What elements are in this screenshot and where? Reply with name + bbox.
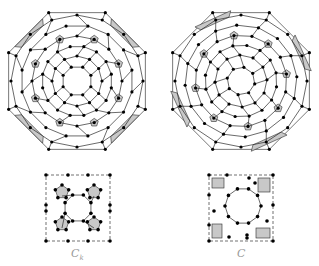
vertex — [285, 72, 288, 75]
vertex — [251, 56, 254, 59]
left-tile-graph — [44, 173, 112, 243]
vertex — [195, 68, 198, 71]
vertex — [244, 135, 247, 138]
vertex — [226, 77, 229, 80]
vertex — [67, 188, 71, 192]
vertex — [75, 34, 78, 37]
vertex — [64, 228, 68, 232]
spoke-edge — [22, 81, 32, 92]
spoke-edge — [188, 64, 197, 70]
ring-edge — [22, 26, 132, 136]
vertex — [104, 11, 107, 14]
shaded-face — [258, 178, 270, 192]
vertex — [29, 48, 32, 51]
vertex — [86, 24, 89, 27]
vertex — [207, 223, 211, 227]
vertex — [58, 38, 61, 41]
vertex — [88, 228, 92, 232]
vertex — [269, 58, 272, 61]
shaded-face — [111, 19, 139, 47]
vertex — [82, 45, 85, 48]
vertex — [247, 176, 251, 180]
vertex — [97, 92, 100, 95]
tile-boundary — [46, 175, 110, 241]
vertex — [227, 102, 230, 105]
vertex — [7, 51, 10, 54]
vertex — [276, 37, 279, 40]
vertex — [171, 108, 174, 111]
vertex — [248, 114, 251, 117]
outer-boundary — [173, 13, 310, 150]
vertex — [239, 13, 242, 16]
vertex — [260, 109, 263, 112]
vertex — [75, 54, 78, 57]
vertex — [259, 204, 263, 208]
vertex — [136, 105, 139, 108]
fullerene-figure — [0, 0, 319, 266]
vertex — [47, 148, 50, 151]
vertex — [60, 183, 64, 187]
vertex — [203, 122, 206, 125]
spoke-edge — [16, 56, 22, 70]
vertex — [107, 33, 110, 36]
vertex — [225, 57, 228, 60]
vertex — [66, 173, 70, 177]
vertex — [284, 90, 287, 93]
ring-edge — [63, 67, 91, 95]
vertex — [44, 48, 47, 51]
vertex — [263, 119, 266, 122]
vertex — [81, 93, 84, 96]
vertex — [63, 101, 66, 104]
vertex — [256, 194, 260, 198]
vertex — [250, 35, 253, 38]
vertex — [171, 51, 174, 54]
ring-edge — [215, 55, 267, 107]
vertex — [245, 233, 249, 237]
shaded-pentagon — [87, 185, 100, 198]
vertex — [50, 79, 53, 82]
vertex — [14, 54, 17, 57]
spoke-edge — [102, 74, 111, 81]
vertex — [214, 140, 217, 143]
vertex — [96, 228, 100, 232]
vertex — [144, 108, 147, 111]
vertex — [88, 101, 91, 104]
vertex — [228, 87, 231, 90]
vertex — [86, 173, 90, 177]
shaded-face — [256, 228, 270, 238]
vertex — [86, 134, 89, 137]
vertex — [69, 114, 72, 117]
vertex — [63, 201, 67, 205]
vertex — [308, 51, 311, 54]
vertex — [173, 79, 176, 82]
vertex — [193, 33, 196, 36]
vertex — [193, 126, 196, 129]
vertex — [202, 52, 205, 55]
spoke-edge — [267, 73, 276, 80]
vertex — [223, 204, 227, 208]
spoke-edge — [294, 98, 302, 106]
vertex — [197, 43, 200, 46]
vertex — [265, 219, 269, 223]
vertex — [246, 125, 249, 128]
vertex — [93, 38, 96, 41]
vertex — [64, 24, 67, 27]
vertex — [300, 54, 303, 57]
vertex — [232, 34, 235, 37]
vertex — [54, 220, 58, 224]
vertex — [70, 66, 73, 69]
vertex — [47, 11, 50, 14]
vertex — [56, 228, 60, 232]
spoke-edge — [216, 134, 224, 142]
vertex — [271, 203, 275, 207]
vertex — [236, 187, 240, 191]
vertex — [97, 67, 100, 70]
vertex — [268, 148, 271, 151]
right-sphere-graph — [171, 11, 312, 152]
vertex — [251, 72, 254, 75]
spoke-edge — [258, 20, 266, 28]
vertex — [222, 133, 225, 136]
ring-edge — [52, 56, 102, 106]
vertex — [141, 79, 144, 82]
vertex — [107, 48, 110, 51]
